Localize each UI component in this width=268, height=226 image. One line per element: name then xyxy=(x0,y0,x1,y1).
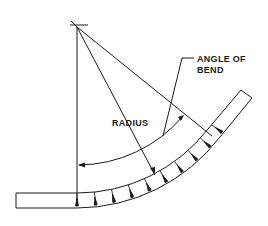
bar-extension-bottom xyxy=(220,98,252,137)
bend-diagram: ANGLE OF BEND RADIUS xyxy=(0,0,268,226)
bar-extension-top xyxy=(208,90,241,129)
radius-label: RADIUS xyxy=(112,118,148,128)
angle-arrow-left-icon xyxy=(78,163,85,168)
angle-of-bend-label-line2: BEND xyxy=(197,65,224,75)
radius-arrow-icon xyxy=(150,167,155,175)
angle-leader xyxy=(163,58,194,136)
bar-end-right xyxy=(241,90,252,98)
bar-inner-arc xyxy=(77,129,208,193)
angle-of-bend-label-line1: ANGLE OF xyxy=(197,54,246,64)
bar-outer-arc xyxy=(77,137,220,208)
radius-line xyxy=(77,27,155,175)
